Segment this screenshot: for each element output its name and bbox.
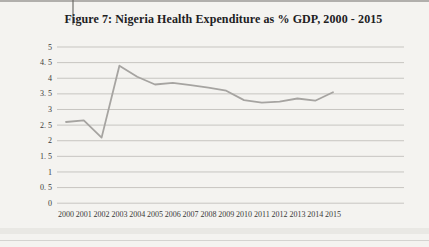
x-axis-tick-label: 2002 [94,210,110,219]
y-axis-tick-label: 1. 5 [40,152,52,161]
x-axis-tick-label: 2009 [218,210,234,219]
x-axis-tick-label: 2015 [325,210,341,219]
y-axis-tick-label: 3 [48,105,52,114]
y-axis-tick-label: 2. 5 [40,121,52,130]
y-axis-tick-label: 3. 5 [40,89,52,98]
line-chart: 00. 511. 522. 533. 544. 5520002001200220… [0,0,429,247]
x-axis-tick-label: 2004 [129,210,145,219]
y-axis-tick-label: 4 [48,74,52,83]
x-axis-tick-label: 2003 [111,210,127,219]
y-axis-tick-label: 0. 5 [40,183,52,192]
data-line-health-expenditure [66,66,333,138]
x-axis-tick-label: 2013 [289,210,305,219]
x-axis-tick-label: 2010 [236,210,252,219]
x-axis-tick-label: 2006 [165,210,181,219]
y-axis-tick-label: 4. 5 [40,58,52,67]
y-axis-tick-label: 2 [48,136,52,145]
y-axis-tick-label: 1 [48,168,52,177]
x-axis-tick-label: 2007 [183,210,199,219]
scanned-figure-page: Figure 7: Nigeria Health Expenditure as … [0,0,429,247]
y-axis-tick-label: 5 [48,43,52,52]
x-axis-tick-label: 2012 [272,210,288,219]
x-axis-tick-label: 2008 [200,210,216,219]
x-axis-tick-label: 2014 [307,210,323,219]
x-axis-tick-label: 2011 [254,210,270,219]
x-axis-tick-label: 2005 [147,210,163,219]
x-axis-tick-label: 2000 [58,210,74,219]
x-axis-tick-label: 2001 [76,210,92,219]
y-axis-tick-label: 0 [48,199,52,208]
